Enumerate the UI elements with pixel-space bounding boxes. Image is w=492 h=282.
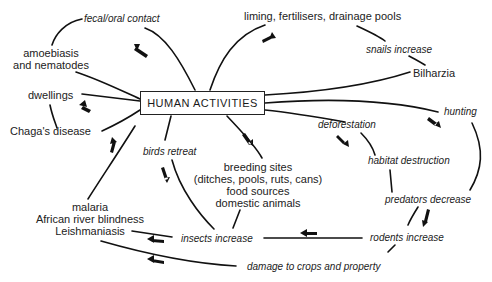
- malaria-line3: Leishmaniasis: [28, 225, 152, 237]
- birds-retreat-label: birds retreat: [143, 146, 196, 158]
- hunting-label: hunting: [444, 106, 477, 118]
- human-activities-node: HUMAN ACTIVITIES: [140, 91, 265, 115]
- malaria-line2: African river blindness: [28, 213, 152, 225]
- deforestation-label: deforestation: [318, 119, 376, 131]
- insects-increase-label: insects increase: [181, 233, 253, 245]
- fecal-oral-contact-label: fecal/oral contact: [84, 13, 160, 25]
- predators-decrease-label: predators decrease: [385, 194, 471, 206]
- breeding-line2: (ditches, pools, ruts, cans): [188, 173, 328, 185]
- liming-fertilisers-label: liming, fertilisers, drainage pools: [244, 10, 401, 22]
- bilharzia-label: Bilharzia: [413, 67, 455, 79]
- chagas-disease-label: Chaga's disease: [10, 125, 91, 137]
- breeding-sites-label: breeding sites (ditches, pools, ruts, ca…: [188, 161, 328, 209]
- malaria-line1: malaria: [28, 201, 152, 213]
- habitat-destruction-label: habitat destruction: [368, 155, 450, 167]
- breeding-line4: domestic animals: [188, 197, 328, 209]
- breeding-line1: breeding sites: [188, 161, 328, 173]
- dwellings-label: dwellings: [28, 89, 73, 101]
- damage-crops-label: damage to crops and property: [247, 261, 380, 273]
- amoebiasis-line1: amoebiasis: [10, 47, 92, 59]
- rodents-increase-label: rodents increase: [370, 232, 444, 244]
- amoebiasis-label: amoebiasis and nematodes: [10, 47, 92, 71]
- malaria-group-label: malaria African river blindness Leishman…: [28, 201, 152, 237]
- amoebiasis-line2: and nematodes: [10, 59, 92, 71]
- snails-increase-label: snails increase: [366, 44, 432, 56]
- breeding-line3: food sources: [188, 185, 328, 197]
